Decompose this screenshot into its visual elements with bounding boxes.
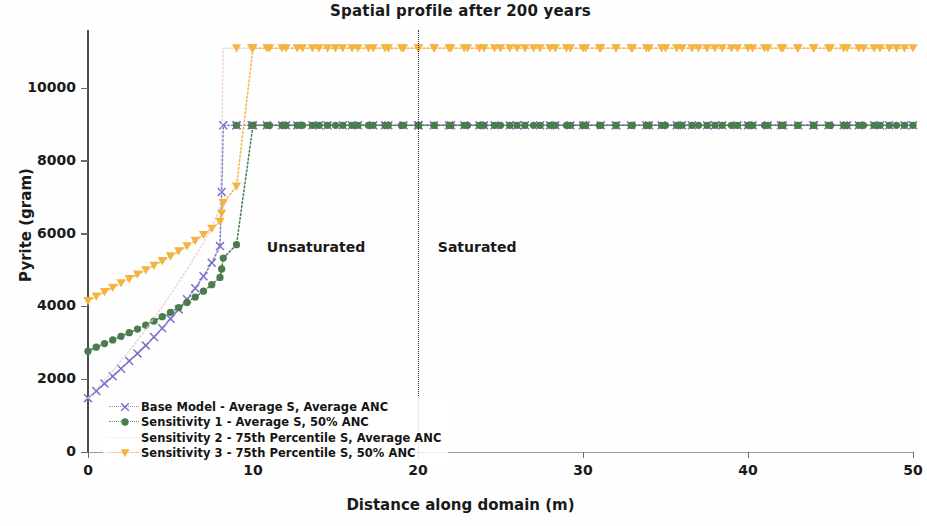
data-point-marker-o	[491, 122, 498, 129]
data-point-marker-o	[764, 122, 771, 129]
chart-legend: Base Model - Average S, Average ANCSensi…	[103, 396, 448, 465]
data-point-marker-o	[711, 122, 718, 129]
x-tick-label: 50	[883, 462, 927, 478]
data-point-marker-v	[83, 297, 92, 305]
legend-label: Base Model - Average S, Average ANC	[141, 400, 388, 414]
series-line	[88, 125, 913, 398]
data-point-marker-o	[810, 122, 817, 129]
legend-item-4[interactable]: Sensitivity 3 - 75th Percentile S, 50% A…	[107, 446, 441, 462]
data-point-marker-v	[207, 225, 216, 233]
data-point-marker-o	[324, 122, 331, 129]
y-axis-title: Pyrite (gram)	[17, 135, 35, 315]
legend-marker-v-icon	[107, 446, 141, 460]
series-1	[84, 121, 917, 402]
series-2	[84, 122, 916, 355]
data-point-marker-o	[294, 122, 301, 129]
data-point-marker-o	[121, 419, 128, 426]
data-point-marker-x	[117, 365, 125, 373]
data-point-marker-o	[263, 122, 270, 129]
data-point-marker-v	[125, 275, 134, 283]
data-point-marker-o	[430, 122, 437, 129]
data-point-marker-x	[121, 403, 129, 411]
data-point-marker-o	[855, 122, 862, 129]
data-point-marker-v	[217, 209, 226, 217]
data-point-marker-o	[658, 122, 665, 129]
unsaturated-zone-label: Unsaturated	[267, 239, 365, 255]
data-point-marker-o	[248, 122, 255, 129]
x-tick-mark	[88, 452, 89, 458]
data-point-marker-x	[142, 341, 150, 349]
x-axis-title: Distance along domain (m)	[0, 496, 921, 514]
data-point-marker-o	[101, 340, 108, 347]
x-tick-mark	[748, 452, 749, 458]
data-point-marker-v	[166, 252, 175, 260]
data-point-marker-o	[84, 348, 91, 355]
data-point-marker-v	[141, 266, 150, 274]
data-point-marker-x	[125, 357, 133, 365]
data-point-marker-x	[167, 315, 175, 323]
data-point-marker-o	[521, 122, 528, 129]
data-point-marker-o	[183, 299, 190, 306]
data-point-marker-o	[218, 265, 225, 272]
data-point-marker-o	[734, 122, 741, 129]
water-table-divider-line	[418, 30, 419, 452]
series-line	[88, 48, 913, 398]
data-point-marker-o	[628, 122, 635, 129]
data-point-marker-x	[150, 333, 158, 341]
data-point-marker-o	[536, 122, 543, 129]
data-point-marker-o	[612, 122, 619, 129]
data-point-marker-o	[901, 122, 908, 129]
data-point-marker-o	[749, 122, 756, 129]
data-point-marker-v	[149, 262, 158, 270]
series-line	[88, 125, 913, 351]
legend-label: Sensitivity 3 - 75th Percentile S, 50% A…	[141, 446, 416, 460]
data-point-marker-o	[278, 122, 285, 129]
data-point-marker-o	[233, 122, 240, 129]
data-point-marker-o	[695, 122, 702, 129]
saturated-zone-label: Saturated	[438, 239, 517, 255]
data-point-marker-o	[339, 122, 346, 129]
data-point-marker-o	[445, 122, 452, 129]
data-point-marker-o	[909, 122, 916, 129]
x-tick-label: 30	[553, 462, 613, 478]
data-point-marker-o	[513, 122, 520, 129]
data-point-marker-v	[108, 284, 117, 292]
data-point-marker-v	[174, 247, 183, 255]
data-point-marker-o	[552, 122, 559, 129]
y-tick-mark	[81, 379, 88, 380]
data-point-marker-o	[309, 122, 316, 129]
legend-marker-none-icon	[107, 431, 141, 445]
data-point-marker-o	[886, 122, 893, 129]
data-point-marker-v	[191, 237, 200, 245]
y-tick-mark	[81, 233, 88, 234]
y-tick-mark	[81, 306, 88, 307]
data-point-marker-o	[597, 122, 604, 129]
data-point-marker-o	[673, 122, 680, 129]
legend-marker-x-icon	[107, 400, 141, 414]
data-point-marker-o	[795, 122, 802, 129]
data-point-marker-v	[158, 257, 167, 265]
chart-title: Spatial profile after 200 years	[0, 2, 921, 20]
data-point-marker-v	[182, 242, 191, 250]
data-point-marker-x	[208, 259, 216, 267]
legend-item-2[interactable]: Sensitivity 1 - Average S, 50% ANC	[107, 415, 441, 431]
y-tick-label: 2000	[37, 370, 76, 386]
data-point-marker-o	[369, 122, 376, 129]
y-tick-label: 6000	[37, 225, 76, 241]
data-point-marker-o	[126, 329, 133, 336]
data-point-marker-o	[167, 309, 174, 316]
y-tick-label: 8000	[37, 152, 76, 168]
data-point-marker-o	[200, 288, 207, 295]
data-point-marker-o	[825, 122, 832, 129]
data-point-marker-o	[719, 122, 726, 129]
data-point-marker-x	[200, 272, 208, 280]
legend-item-3[interactable]: Sensitivity 2 - 75th Percentile S, Avera…	[107, 430, 441, 446]
legend-item-1[interactable]: Base Model - Average S, Average ANC	[107, 399, 441, 415]
data-point-marker-v	[133, 271, 142, 279]
data-point-marker-o	[216, 274, 223, 281]
data-point-marker-o	[893, 122, 900, 129]
data-point-marker-o	[703, 122, 710, 129]
series-3	[88, 48, 913, 398]
data-point-marker-o	[354, 122, 361, 129]
